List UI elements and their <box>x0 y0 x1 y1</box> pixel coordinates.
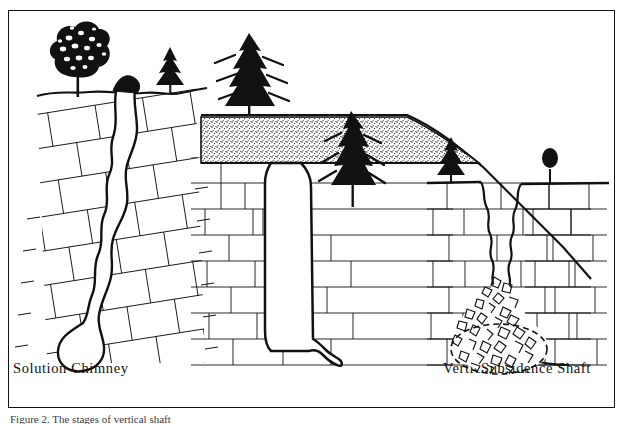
vertical-shaft-void <box>265 163 342 366</box>
bedrock-blocks-mid-left <box>191 157 453 365</box>
figure-caption: Figure 2. The stages of vertical shaft <box>10 413 610 424</box>
conifer-tree-left-panel <box>156 47 184 93</box>
conifer-upland-middle <box>215 33 289 115</box>
broadleaf-tree-left <box>50 22 110 97</box>
ground-surface-right-left <box>427 182 481 183</box>
solution-chimney-void <box>58 89 137 371</box>
panel-label-left: Solution Chimney <box>13 360 129 376</box>
panel-label-right: Subsidence Shaft <box>481 360 591 376</box>
round-tree-right-panel <box>542 148 558 183</box>
ground-surface-right-right <box>521 183 609 184</box>
figure-frame: Solution Chimney <box>8 10 615 408</box>
soil-plug-left <box>113 76 140 93</box>
figure-stage: Solution Chimney <box>0 0 623 424</box>
diagram-svg: Solution Chimney <box>9 11 613 406</box>
panel-subsidence-shaft: Subsidence Shaft <box>419 137 609 376</box>
